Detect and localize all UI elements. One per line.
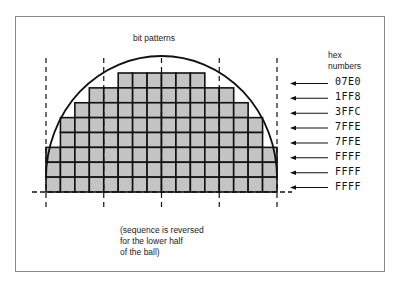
bit-cell [118,88,132,103]
bit-cell [118,118,132,133]
bit-cell [147,103,161,118]
bit-cell [248,177,262,192]
hex-value: 7FFE [335,121,361,132]
arrow-left-icon [290,111,296,115]
bit-cell [133,73,147,88]
bit-cell [219,118,233,133]
bit-cell [104,103,118,118]
bit-cell [147,162,161,177]
bit-cell [118,133,132,148]
bit-cell [89,103,103,118]
bit-cell [248,162,262,177]
bit-cell [176,88,190,103]
arrow-left-icon [290,156,296,160]
bit-cell [190,162,204,177]
bit-cell [133,177,147,192]
bit-cell [147,88,161,103]
bit-cell [104,177,118,192]
bit-cell [176,73,190,88]
bit-cell [147,118,161,133]
bit-cell [219,162,233,177]
bit-cell [147,133,161,148]
bit-cell [75,162,89,177]
bit-cell [205,147,219,162]
bit-cell [176,147,190,162]
bit-cell [89,133,103,148]
bit-cell [205,88,219,103]
bit-cell [75,147,89,162]
bit-cell [75,118,89,133]
bit-cell [133,88,147,103]
bit-cell [118,162,132,177]
bit-cell [104,118,118,133]
bit-cell [234,133,248,148]
bit-cell [162,73,176,88]
bit-cell [60,133,74,148]
bit-cell [133,103,147,118]
hex-value: 7FFE [335,136,361,147]
bit-cell [118,177,132,192]
bit-cell [46,177,60,192]
caption: (sequence is reversed for the lower half… [120,225,204,258]
bit-cell [190,118,204,133]
bit-cell [162,162,176,177]
arrow-left-icon [290,141,296,145]
bit-cell [219,103,233,118]
hex-value: 07E0 [335,76,361,87]
bit-cell [162,88,176,103]
bit-cell [248,133,262,148]
bit-cell [190,88,204,103]
bit-cell [162,133,176,148]
bit-cell [190,177,204,192]
bit-cell [205,103,219,118]
bit-cell [89,162,103,177]
bit-cell [89,118,103,133]
caption-line1: (sequence is reversed [120,225,204,236]
bit-cell [234,162,248,177]
bit-cell [133,147,147,162]
bit-cell [190,103,204,118]
bit-cell [75,133,89,148]
bit-cell [234,103,248,118]
arrow-left-icon [290,126,296,130]
bit-cell [133,118,147,133]
bit-cell [60,118,74,133]
hex-value: FFFF [335,151,361,162]
bit-cell [176,118,190,133]
arrow-left-icon [290,185,296,189]
arrow-left-icon [290,96,296,100]
arrow-left-icon [290,170,296,174]
bit-cell [205,177,219,192]
bit-cell [190,73,204,88]
bit-cell [104,162,118,177]
bit-cell [89,147,103,162]
bit-cell [133,162,147,177]
caption-line2: for the lower half [120,236,204,247]
bit-cell [205,118,219,133]
bit-cell [234,118,248,133]
bit-cell [60,162,74,177]
bit-cell [46,162,60,177]
bit-cell [162,103,176,118]
bit-cell [60,177,74,192]
bit-cell [248,147,262,162]
bit-cell [248,118,262,133]
bit-cell [89,88,103,103]
bit-cell [133,133,147,148]
caption-line3: of the ball) [120,247,204,258]
bit-cell [118,147,132,162]
bit-cell [190,147,204,162]
bit-cell [104,133,118,148]
bit-cell [162,177,176,192]
bit-cell [104,147,118,162]
bit-cell [234,177,248,192]
arrow-left-icon [290,81,296,85]
bit-cell [263,177,277,192]
bit-cell [219,88,233,103]
bit-cell [147,177,161,192]
bit-cell [263,162,277,177]
hex-value: 3FFC [335,106,361,117]
bit-cell [118,103,132,118]
bit-cell [118,73,132,88]
bit-cell [176,103,190,118]
